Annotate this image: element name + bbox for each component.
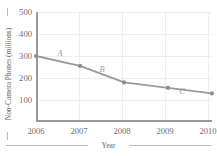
plot-area: 100 200 300 400 500 2006 2007 2008 2009 … (36, 12, 212, 122)
x-axis-title-rule-right (129, 145, 211, 146)
x-tick-label-2009: 2009 (156, 126, 173, 136)
chart-canvas: Non-Camera Phones (millions) 100 200 300… (0, 0, 217, 156)
data-point-2010 (210, 91, 214, 95)
x-axis-title-group: Year (6, 138, 211, 152)
x-tick-label-2008: 2008 (113, 126, 130, 136)
y-axis-title-group: Non-Camera Phones (millions) (0, 8, 16, 140)
x-tick-label-2007: 2007 (70, 126, 87, 136)
y-tick-label-500: 500 (19, 7, 32, 17)
data-point-2006 (34, 54, 38, 58)
annotation-label-b: B (99, 65, 104, 74)
data-point-2007 (78, 64, 82, 68)
series-line-non-camera-phones (36, 12, 212, 122)
x-tick-label-2006: 2006 (27, 126, 44, 136)
y-tick-label-400: 400 (19, 29, 32, 39)
data-point-2008 (122, 80, 126, 84)
y-axis-title-rule-top (7, 8, 8, 16)
series-markers (34, 54, 214, 96)
data-point-2009 (166, 86, 170, 90)
x-tick-label-2010: 2010 (199, 126, 216, 136)
series-polyline (36, 56, 212, 93)
x-axis-title: Year (99, 141, 119, 150)
annotation-label-c: C (179, 87, 185, 96)
x-axis-title-rule-left (6, 145, 88, 146)
y-tick-label-300: 300 (19, 51, 32, 61)
annotation-label-a: A (57, 49, 62, 58)
y-axis-title: Non-Camera Phones (millions) (4, 28, 13, 120)
y-tick-label-200: 200 (19, 73, 32, 83)
y-tick-label-100: 100 (19, 95, 32, 105)
